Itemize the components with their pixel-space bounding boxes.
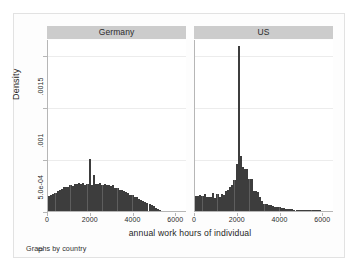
panel-title-us: US: [194, 26, 333, 39]
panel-title-germany: Germany: [47, 26, 186, 39]
panel-germany-inner: [48, 40, 186, 212]
y-axis-tick: [43, 160, 47, 161]
x-axis-line-germany: [48, 211, 186, 212]
figure-footnote: Graphs by country: [26, 244, 86, 253]
x-axis-tick-label: 0: [179, 216, 209, 223]
panel-us: [194, 40, 333, 212]
x-axis-line-us: [195, 211, 333, 212]
y-axis-tick-label: .001: [37, 107, 44, 147]
y-axis-tick-label: .0015: [37, 55, 44, 95]
y-axis-tick: [43, 108, 47, 109]
x-axis-tick-label: 4000: [118, 216, 148, 223]
x-axis-tick-label: 6000: [307, 216, 337, 223]
x-axis-tick-label: 2000: [75, 216, 105, 223]
x-axis-tick-label: 4000: [265, 216, 295, 223]
y-axis-tick-label: 5.0e-04: [37, 159, 44, 199]
y-axis-title: Density: [11, 69, 21, 100]
panel-us-inner: [195, 40, 333, 212]
histogram-bars-germany: [48, 40, 186, 211]
figure-canvas: Germany US Density 05.0e-04.001.00150200…: [0, 0, 359, 271]
panel-germany: [47, 40, 186, 212]
y-axis-tick: [43, 56, 47, 57]
x-axis-tick-label: 2000: [222, 216, 252, 223]
x-axis-tick-label: 0: [32, 216, 62, 223]
histogram-bars-us: [195, 40, 333, 211]
x-axis-title: annual work hours of individual: [47, 228, 333, 238]
